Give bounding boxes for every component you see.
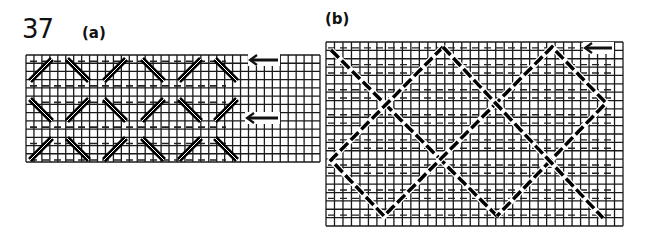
panel-b-canvas-grid: [326, 42, 623, 226]
stitch-highlight: [215, 138, 237, 160]
stitch-highlight: [215, 59, 237, 81]
stitch-diagram: [0, 0, 645, 238]
stitch-highlight: [104, 59, 126, 81]
panel-a-canvas-grid: [26, 54, 320, 162]
stitch-highlight: [179, 138, 201, 160]
stitch-highlight: [67, 59, 89, 81]
stitch-highlight: [104, 138, 126, 160]
stitch-highlight: [179, 59, 201, 81]
stitch-highlight: [67, 138, 89, 160]
